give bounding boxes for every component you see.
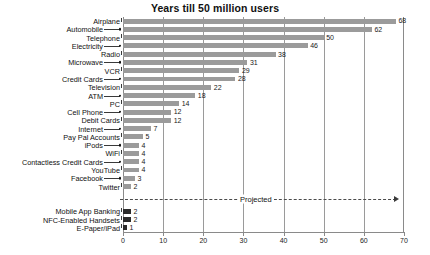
label-tick [121, 216, 122, 220]
bar-television[interactable] [123, 85, 211, 90]
label-tick [121, 34, 122, 38]
bar-row[interactable]: 31 [123, 60, 404, 65]
bar-row[interactable]: 29 [123, 68, 404, 73]
bar-row[interactable]: 12 [123, 118, 404, 123]
x-axis-line [123, 232, 404, 233]
bar-row[interactable]: 4 [123, 143, 404, 148]
label-tick [121, 67, 122, 71]
label-tick [121, 18, 122, 22]
projected-label: Projected [238, 194, 274, 203]
bar-row[interactable]: 28 [123, 77, 404, 82]
bar-microwave[interactable] [123, 60, 247, 65]
bar-value-label: 28 [238, 75, 246, 82]
x-tick-label-10: 10 [159, 237, 167, 244]
bar-vcr[interactable] [123, 68, 239, 73]
bar-row[interactable]: 14 [123, 101, 404, 106]
bar-value-label: 18 [198, 92, 206, 99]
bar-value-label: 38 [278, 51, 286, 58]
x-tick-40 [284, 232, 285, 236]
x-tick-60 [364, 232, 365, 236]
bar-row[interactable]: 1 [123, 225, 404, 230]
bar-value-label: 12 [174, 117, 182, 124]
bar-row[interactable]: 46 [123, 43, 404, 48]
bar-airplane[interactable] [123, 19, 396, 24]
bar-row[interactable]: 4 [123, 151, 404, 156]
bar-telephone[interactable] [123, 35, 324, 40]
bar-value-label: 5 [146, 133, 150, 140]
x-tick-70 [404, 232, 405, 236]
bar-pc[interactable] [123, 101, 179, 106]
bar-row[interactable]: 12 [123, 110, 404, 115]
bar-row[interactable]: 2 [123, 217, 404, 222]
bar-radio[interactable] [123, 52, 276, 57]
bar-e-paper-ipad[interactable] [123, 225, 127, 230]
bar-contactless-credit-cards[interactable] [123, 159, 139, 164]
bar-value-label: 2 [134, 208, 138, 215]
bar-electricity[interactable] [123, 43, 308, 48]
x-tick-label-40: 40 [280, 237, 288, 244]
bar-row[interactable]: 7 [123, 126, 404, 131]
category-label-ipods: iPods [85, 141, 103, 150]
x-tick-20 [203, 232, 204, 236]
bar-internet[interactable] [123, 126, 151, 131]
bar-row[interactable]: 4 [123, 159, 404, 164]
bar-value-label: 4 [142, 150, 146, 157]
bar-row[interactable]: 50 [123, 35, 404, 40]
bar-value-label: 2 [134, 216, 138, 223]
bar-youtube[interactable] [123, 168, 139, 173]
label-tick [121, 224, 122, 228]
chart-title: Years till 50 million users [0, 2, 430, 14]
bar-cell-phone[interactable] [123, 110, 171, 115]
bar-value-label: 1 [130, 224, 134, 231]
bar-row[interactable]: 2 [123, 209, 404, 214]
bar-value-label: 14 [182, 100, 190, 107]
bar-pay-pal-accounts[interactable] [123, 134, 143, 139]
bar-row[interactable]: 38 [123, 52, 404, 57]
bar-row[interactable]: 62 [123, 27, 404, 32]
bar-twitter[interactable] [123, 184, 131, 189]
bar-row[interactable]: 22 [123, 85, 404, 90]
label-tick [121, 84, 122, 88]
label-tick [121, 208, 122, 212]
x-tick-30 [243, 232, 244, 236]
bar-ipods[interactable] [123, 143, 139, 148]
label-tick [121, 100, 122, 104]
bar-facebook[interactable] [123, 176, 135, 181]
bar-value-label: 4 [142, 158, 146, 165]
bar-row[interactable]: 68 [123, 19, 404, 24]
bar-credit-cards[interactable] [123, 77, 235, 82]
category-label-e-paper-ipad: E-Paper/iPad [77, 223, 120, 232]
bar-value-label: 68 [398, 17, 406, 24]
bar-atm[interactable] [123, 93, 195, 98]
x-tick-label-60: 60 [360, 237, 368, 244]
label-tick [121, 117, 122, 121]
label-tick [121, 51, 122, 55]
bar-row[interactable]: 3 [123, 176, 404, 181]
bar-debit-cards[interactable] [123, 118, 171, 123]
bar-value-label: 31 [250, 59, 258, 66]
bar-row[interactable]: 5 [123, 134, 404, 139]
bar-value-label: 62 [374, 26, 382, 33]
bar-value-label: 12 [174, 108, 182, 115]
category-label-microwave: Microwave [68, 58, 103, 67]
category-label-atm: ATM [88, 91, 103, 100]
label-tick [121, 150, 122, 154]
x-tick-label-20: 20 [199, 237, 207, 244]
category-label-twitter: Twitter [99, 182, 121, 191]
category-label-wifi: WiFi [105, 149, 120, 158]
label-tick [121, 183, 122, 187]
bar-value-label: 7 [154, 125, 158, 132]
x-tick-10 [163, 232, 164, 236]
bar-wifi[interactable] [123, 151, 139, 156]
bar-value-label: 3 [138, 175, 142, 182]
bar-row[interactable]: 2 [123, 184, 404, 189]
bar-nfc-enabled-handsets[interactable] [123, 217, 131, 222]
bar-row[interactable]: 18 [123, 93, 404, 98]
x-tick-50 [324, 232, 325, 236]
label-tick [121, 133, 122, 137]
bar-row[interactable]: 4 [123, 168, 404, 173]
bar-mobile-app-banking[interactable] [123, 209, 131, 214]
x-tick-label-50: 50 [320, 237, 328, 244]
bar-automobile[interactable] [123, 27, 372, 32]
category-label-pc: PC [110, 99, 120, 108]
